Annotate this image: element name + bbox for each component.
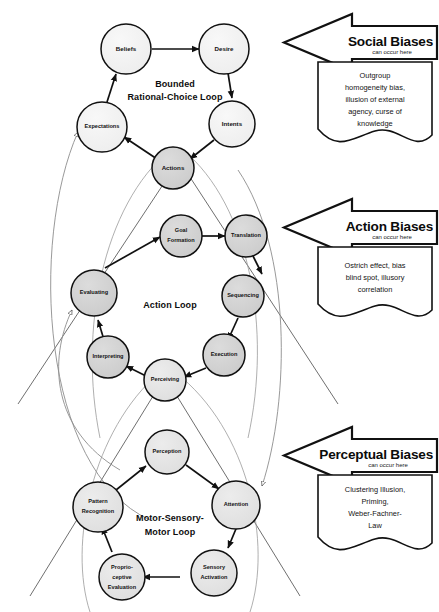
perceptual-biases-note-line-3: Weber-Fachner- xyxy=(348,509,402,518)
banner-perceptual-biases[interactable]: Perceptual Biases can occur here Cluster… xyxy=(0,0,439,612)
perceptual-biases-note-line-2: Priming, xyxy=(361,497,388,506)
diagram-canvas: Beliefs Desire Intents Actions Expectati… xyxy=(0,0,439,612)
perceptual-biases-note-line-1: Clustering Illusion, xyxy=(345,485,405,494)
perceptual-biases-subtitle: can occur here xyxy=(368,462,408,468)
perceptual-biases-title: Perceptual Biases xyxy=(319,447,433,462)
perceptual-biases-note-line-4: Law xyxy=(368,521,382,530)
